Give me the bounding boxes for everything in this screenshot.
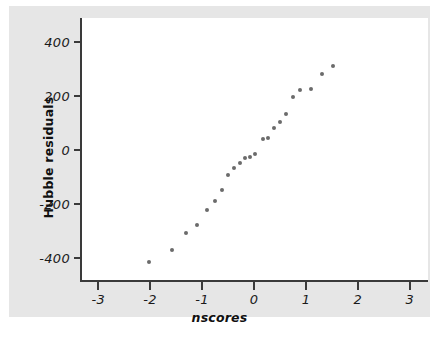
y-axis-title: Hubble residuals xyxy=(41,68,56,248)
scatter-point xyxy=(184,231,188,235)
x-tick-label: 1 xyxy=(302,292,311,307)
scatter-point xyxy=(331,64,335,68)
scatter-point xyxy=(232,166,236,170)
scatter-point xyxy=(298,88,302,92)
scatter-point xyxy=(309,87,313,91)
x-tick-mark xyxy=(201,282,203,290)
y-tick-label: 0 xyxy=(61,143,70,158)
x-tick-mark xyxy=(409,282,411,290)
x-tick-mark xyxy=(253,282,255,290)
scatter-point xyxy=(213,199,217,203)
scatter-point xyxy=(195,223,199,227)
x-tick-label: 2 xyxy=(354,292,363,307)
scatter-point xyxy=(226,173,230,177)
x-tick-label: -3 xyxy=(91,292,105,307)
x-tick-mark xyxy=(357,282,359,290)
scatter-point xyxy=(272,126,276,130)
scatter-point xyxy=(320,72,324,76)
hubble-residuals-qq-plot-figure: -400-2000200400 -3-2-10123 Hubble residu… xyxy=(0,0,439,339)
x-tick-label: 3 xyxy=(406,292,415,307)
x-tick-label: -1 xyxy=(195,292,209,307)
scatter-point xyxy=(220,188,224,192)
x-tick-mark xyxy=(97,282,99,290)
scatter-point xyxy=(238,161,242,165)
scatter-point xyxy=(284,112,288,116)
scatter-point xyxy=(253,152,257,156)
scatter-point xyxy=(261,137,265,141)
scatter-point xyxy=(291,95,295,99)
y-tick-label: 400 xyxy=(44,34,70,49)
scatter-point xyxy=(266,136,270,140)
plot-area xyxy=(80,18,428,282)
scatter-point xyxy=(205,208,209,212)
y-tick-mark xyxy=(74,95,82,97)
scatter-point xyxy=(170,248,174,252)
scatter-point xyxy=(278,120,282,124)
x-tick-label: 0 xyxy=(250,292,259,307)
y-tick-mark xyxy=(74,41,82,43)
x-tick-mark xyxy=(305,282,307,290)
y-tick-mark xyxy=(74,257,82,259)
y-tick-label: -400 xyxy=(39,251,70,266)
scatter-point xyxy=(248,155,252,159)
y-tick-mark xyxy=(74,203,82,205)
x-axis-title: nscores xyxy=(0,310,439,325)
y-tick-mark xyxy=(74,149,82,151)
x-tick-mark xyxy=(149,282,151,290)
scatter-point xyxy=(243,156,247,160)
x-tick-label: -2 xyxy=(143,292,157,307)
scatter-point xyxy=(147,260,151,264)
